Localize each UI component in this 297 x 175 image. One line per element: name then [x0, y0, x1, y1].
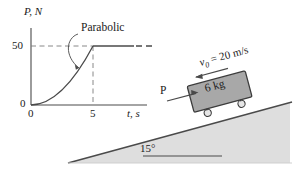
y-tick-label-50: 50: [12, 40, 23, 51]
parabolic-callout-label: Parabolic: [81, 22, 124, 34]
x-axis-label: t, s: [127, 108, 140, 119]
velocity-subscript: 0: [204, 60, 210, 70]
force-label: P: [160, 85, 166, 97]
y-tick-label-0: 0: [20, 98, 26, 109]
incline-angle-label: 15°: [140, 143, 155, 154]
physics-figure: P, N 50 0 0 5 t, s Parabolic v0 = 20 m/s…: [0, 0, 297, 175]
y-axis-label: P, N: [24, 6, 42, 17]
x-tick-label-5: 5: [90, 108, 96, 119]
x-tick-label-0: 0: [28, 108, 34, 119]
velocity-arrow-head: [195, 74, 203, 79]
callout-leader-line: [68, 34, 79, 68]
curve-parabolic-segment: [31, 46, 93, 105]
